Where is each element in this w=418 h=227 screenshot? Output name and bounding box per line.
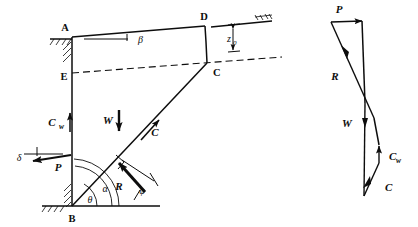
point-label-A: A (61, 22, 69, 33)
point-label-B: B (68, 213, 75, 224)
dimension-label-z0-main: z (226, 33, 231, 44)
angle-label-delta: δ (17, 152, 22, 163)
wall-base-hatching (64, 184, 71, 207)
point-label-C: C (213, 67, 221, 78)
force-label-Cw-sub: w (59, 122, 65, 131)
polygon-label-P: P (336, 3, 343, 15)
polygon-edge-R-extension (374, 118, 379, 145)
point-label-D: D (200, 11, 208, 22)
z0-bottom-tick (228, 51, 240, 52)
force-polygon-group: P R W C w C (330, 3, 402, 196)
dashed-line-EC (72, 57, 282, 73)
polygon-vector-P (331, 21, 362, 22)
dimension-label-z0: z 0 (226, 33, 237, 47)
support-hatching-top (50, 39, 71, 45)
polygon-label-W: W (342, 117, 353, 129)
alpha-outer-arc (74, 159, 119, 206)
angle-label-theta: θ (88, 194, 93, 205)
angle-label-phi: φ (139, 185, 145, 196)
polygon-arrowhead-R (341, 45, 349, 59)
polygon-vector-W (364, 103, 365, 196)
polygon-arrowhead-W (362, 118, 368, 128)
polygon-vector-C (364, 163, 379, 196)
force-arrow-P (33, 155, 71, 161)
backfill-surface-right (211, 21, 272, 27)
free-body-diagram-group: A B C D E β θ α φ δ P W C C w R z (17, 11, 282, 224)
force-label-Cw-wall: C w (48, 116, 65, 131)
polygon-label-C: C (385, 181, 393, 193)
force-label-R: R (114, 180, 122, 192)
figure-root: A B C D E β θ α φ δ P W C C w R z (0, 0, 418, 227)
force-label-C-slip: C (151, 126, 159, 138)
angle-label-beta: β (137, 34, 143, 45)
engineering-diagram: A B C D E β θ α φ δ P W C C w R z (0, 0, 418, 227)
polygon-label-R: R (330, 70, 338, 82)
force-label-W: W (103, 114, 114, 126)
polygon-label-Cw-sub: w (396, 156, 402, 165)
force-label-P: P (55, 161, 62, 173)
tension-crack-DC (205, 26, 207, 63)
angle-label-alpha: α (102, 183, 108, 194)
force-label-Cw-main: C (48, 116, 56, 128)
surface-hatching-right (255, 14, 272, 20)
dimension-label-z0-sub: 0 (233, 39, 237, 47)
ground-hatching (42, 206, 64, 212)
polygon-label-Cw: C w (389, 150, 402, 165)
point-label-E: E (60, 71, 67, 82)
